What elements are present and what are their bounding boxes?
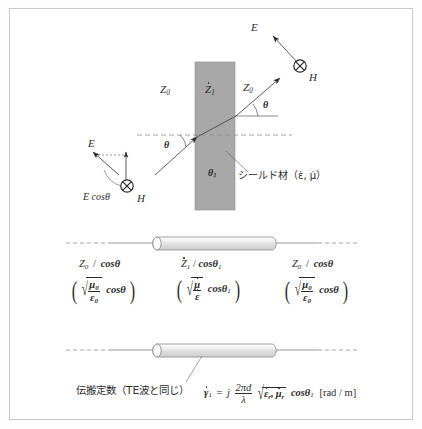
shield-material-label: シールド材（ε̇, μ̇） (238, 171, 326, 181)
impedance-right-label: Z0 (243, 82, 253, 95)
segment-3-impedance: Z0 / cosθ (292, 259, 333, 270)
segment-2-impedance: Z1 / cosθ1 (181, 259, 221, 270)
e-vector-right (273, 36, 297, 62)
exit-angle-arc (253, 104, 258, 116)
segment-3-expression: ( √ μ0 ε0 cosθ ) (283, 277, 350, 304)
tl-lower-cylinder (153, 344, 276, 357)
transmission-line-lower (66, 344, 358, 382)
propagation-leader-line (186, 356, 202, 382)
transmission-line-upper (66, 237, 358, 250)
impedance-left-label: Z0 (160, 84, 170, 97)
e-vector-left (93, 152, 119, 175)
incident-ray (155, 137, 197, 175)
figure-graphics (0, 0, 422, 429)
tl-lower-cap (153, 344, 161, 357)
segment-2-expression: ( √ μ ε cosθ1 ) (175, 277, 242, 302)
h-label-left: H (137, 193, 145, 204)
figure-page: Z0 Z1 Z0 θ θ θ1 シールド材（ε̇, μ̇） E H E E co… (0, 0, 422, 429)
impedance-slab-label: Z1 (205, 84, 215, 97)
angle-theta-right-label: θ (263, 100, 268, 110)
angle-theta-incident-label: θ (164, 140, 169, 150)
angle-theta1-slab-label: θ1 (208, 168, 217, 179)
segment-1-impedance: Z0 / cosθ (79, 259, 120, 270)
right-field-vectors (273, 36, 306, 72)
shield-slab (195, 62, 235, 210)
h-label-right: H (309, 72, 317, 83)
segment-1-expression: ( √ μ0 ε0 cosθ ) (70, 277, 137, 304)
e-cos-theta-label: E cosθ (83, 192, 110, 202)
e-label-left: E (88, 138, 95, 149)
left-field-vectors (93, 152, 133, 192)
e-cos-theta-arc (104, 170, 121, 186)
propagation-formula: γ1 = j 2πd λ √ εr, μr cosθ1 [rad / m] (204, 382, 356, 405)
propagation-caption: 伝搬定数（TE波と同じ） (76, 385, 189, 396)
incident-angle-arc (180, 135, 186, 147)
tl-upper-cap (153, 237, 161, 250)
e-label-right: E (251, 22, 258, 33)
tl-upper-cylinder (153, 237, 276, 250)
